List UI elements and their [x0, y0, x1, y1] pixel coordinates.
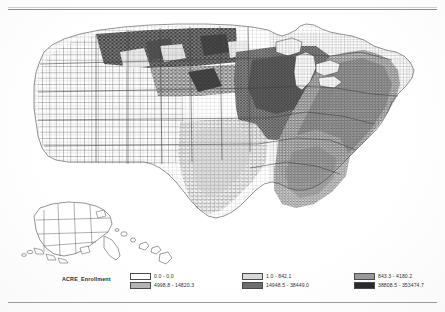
legend-label-class-2: 1.0 - 842.1 — [266, 273, 291, 280]
legend-label-class-5: 14948.5 - 38449.0 — [266, 282, 309, 289]
figure-page: ACRE_Enrollment 0.0 - 0.0 4998.8 - 14820… — [0, 0, 445, 312]
legend-column-3: 843.3 - 4180.2 38808.5 - 353474.7 — [354, 272, 442, 289]
legend-item[interactable]: 1.0 - 842.1 — [242, 272, 330, 280]
legend-item[interactable]: 843.3 - 4180.2 — [354, 272, 442, 280]
legend-item[interactable]: 38808.5 - 353474.7 — [354, 281, 442, 289]
legend-label-class-6: 38808.5 - 353474.7 — [378, 282, 424, 289]
legend-swatch-class-6 — [354, 282, 375, 289]
legend-column-2: 1.0 - 842.1 14948.5 - 38449.0 — [242, 272, 330, 289]
legend-swatch-class-1 — [130, 273, 151, 280]
legend-title: ACRE_Enrollment — [62, 275, 111, 282]
legend-item[interactable]: 0.0 - 0.0 — [130, 272, 218, 280]
page-rule-top — [8, 9, 437, 10]
map-legend: ACRE_Enrollment 0.0 - 0.0 4998.8 - 14820… — [60, 272, 405, 296]
legend-swatch-class-4 — [130, 282, 151, 289]
legend-label-class-4: 4998.8 - 14820.3 — [154, 282, 194, 289]
legend-item[interactable]: 14948.5 - 38449.0 — [242, 281, 330, 289]
legend-swatch-class-3 — [354, 273, 375, 280]
legend-columns: 0.0 - 0.0 4998.8 - 14820.3 1.0 - 842.1 1… — [130, 272, 442, 289]
legend-column-1: 0.0 - 0.0 4998.8 - 14820.3 — [130, 272, 218, 289]
page-rule-bottom — [8, 302, 437, 303]
legend-label-class-1: 0.0 - 0.0 — [154, 273, 174, 280]
legend-label-class-3: 843.3 - 4180.2 — [378, 273, 412, 280]
map-figure — [0, 12, 445, 270]
legend-swatch-class-2 — [242, 273, 263, 280]
us-county-choropleth — [0, 12, 445, 270]
legend-item[interactable]: 4998.8 - 14820.3 — [130, 281, 218, 289]
legend-swatch-class-5 — [242, 282, 263, 289]
